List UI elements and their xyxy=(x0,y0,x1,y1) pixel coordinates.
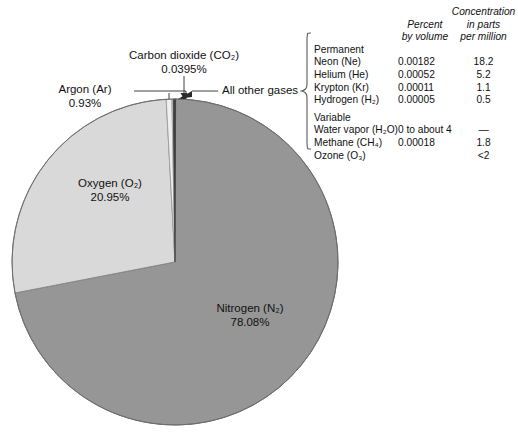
row-name: Water vapor (H₂O) xyxy=(314,124,398,137)
row-name: Neon (Ne) xyxy=(314,56,398,69)
header-percent: Percent by volume xyxy=(398,6,452,44)
header-name xyxy=(314,6,398,44)
table-row[interactable]: Neon (Ne) 0.00182 18.2 xyxy=(314,56,515,69)
row-ppm: 0.5 xyxy=(452,94,515,107)
row-ppm: 5.2 xyxy=(452,69,515,82)
callout-co2-value: 0.0395% xyxy=(121,63,247,77)
callout-argon-name: Argon (Ar) xyxy=(58,83,111,95)
callout-all-other-gases: All other gases xyxy=(222,84,298,98)
pie-label-oxygen-name: Oxygen (O₂) xyxy=(78,177,142,189)
header-percent-line1: Percent xyxy=(398,19,452,32)
pie-label-nitrogen: Nitrogen (N₂) 78.08% xyxy=(185,302,315,329)
row-percent: 0.00018 xyxy=(398,137,452,150)
row-name: Ozone (O₃) xyxy=(314,150,398,163)
row-name: Methane (CH₄) xyxy=(314,137,398,150)
row-ppm: <2 xyxy=(452,150,515,163)
callout-other-name: All other gases xyxy=(222,84,298,96)
row-name: Helium (He) xyxy=(314,69,398,82)
row-name: Hydrogen (H₂) xyxy=(314,94,398,107)
group-header-variable: Variable xyxy=(314,112,515,125)
table-body: Permanent Neon (Ne) 0.00182 18.2 Helium … xyxy=(314,44,515,162)
table-head: Percent by volume Concentration in parts… xyxy=(314,6,515,44)
header-ppm-line3: per million xyxy=(452,31,515,44)
group-title-permanent: Permanent xyxy=(314,44,398,57)
pie-label-nitrogen-value: 78.08% xyxy=(230,316,269,328)
row-ppm: — xyxy=(452,124,515,137)
group-title-variable: Variable xyxy=(314,112,398,125)
row-percent xyxy=(398,150,452,163)
pie-label-nitrogen-name: Nitrogen (N₂) xyxy=(216,302,283,314)
row-ppm: 1.1 xyxy=(452,82,515,95)
table-brace xyxy=(300,32,313,150)
row-name: Krypton (Kr) xyxy=(314,82,398,95)
pie-label-oxygen-value: 20.95% xyxy=(90,191,129,203)
row-percent: 0.00052 xyxy=(398,69,452,82)
figure-root: Carbon dioxide (CO₂) 0.0395% Argon (Ar) … xyxy=(0,0,518,435)
row-percent: 0.00182 xyxy=(398,56,452,69)
table-row[interactable]: Ozone (O₃) <2 xyxy=(314,150,515,163)
callout-carbon-dioxide: Carbon dioxide (CO₂) 0.0395% xyxy=(121,49,247,76)
header-percent-line2: by volume xyxy=(398,31,452,44)
table-row[interactable]: Krypton (Kr) 0.00011 1.1 xyxy=(314,82,515,95)
row-percent: 0 to about 4 xyxy=(398,124,452,137)
header-ppm-line1: Concentration xyxy=(452,6,515,19)
table-header-row: Percent by volume Concentration in parts… xyxy=(314,6,515,44)
callout-argon-value: 0.93% xyxy=(39,97,131,111)
table-row[interactable]: Methane (CH₄) 0.00018 1.8 xyxy=(314,137,515,150)
row-percent: 0.00005 xyxy=(398,94,452,107)
composition-table: Percent by volume Concentration in parts… xyxy=(314,6,515,162)
row-percent: 0.00011 xyxy=(398,82,452,95)
row-ppm: 1.8 xyxy=(452,137,515,150)
leader-line-argon xyxy=(134,91,186,99)
header-ppm-line2: in parts xyxy=(452,19,515,32)
callout-co2-name: Carbon dioxide (CO₂) xyxy=(129,49,239,61)
pie-label-oxygen: Oxygen (O₂) 20.95% xyxy=(45,177,175,204)
group-header-permanent: Permanent xyxy=(314,44,515,57)
leader-arrow-other xyxy=(178,91,192,99)
gas-composition-table: Percent by volume Concentration in parts… xyxy=(300,6,514,162)
table-row[interactable]: Hydrogen (H₂) 0.00005 0.5 xyxy=(314,94,515,107)
callout-argon: Argon (Ar) 0.93% xyxy=(39,83,131,110)
row-ppm: 18.2 xyxy=(452,56,515,69)
header-ppm: Concentration in parts per million xyxy=(452,6,515,44)
table-row[interactable]: Water vapor (H₂O) 0 to about 4 — xyxy=(314,124,515,137)
table-row[interactable]: Helium (He) 0.00052 5.2 xyxy=(314,69,515,82)
